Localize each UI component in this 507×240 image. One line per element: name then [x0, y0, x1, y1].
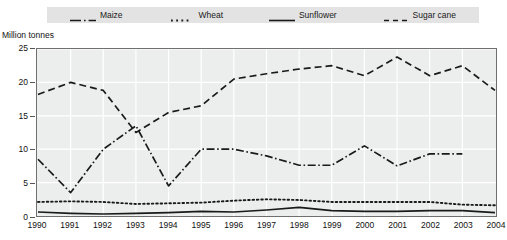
x-axis-tick-label: 1998 — [290, 220, 309, 230]
page-bottom-margin — [0, 232, 507, 240]
legend-item-sugar-cane[interactable]: Sugar cane — [383, 11, 456, 20]
y-axis-tick — [30, 183, 35, 184]
x-axis-tick-label: 2000 — [355, 220, 374, 230]
y-axis-tick-label: 20 — [19, 77, 28, 87]
chart-page: Maize Wheat Sunflower Sugar cane Million… — [0, 0, 507, 240]
chart-canvas — [37, 49, 496, 216]
line-dashdot-icon — [70, 11, 96, 20]
y-axis-unit-caption: Million tonnes — [2, 30, 54, 40]
x-axis-tick-label: 1996 — [224, 220, 243, 230]
line-solid-icon — [269, 11, 295, 20]
legend-item-sunflower[interactable]: Sunflower — [269, 11, 337, 20]
chart-legend: Maize Wheat Sunflower Sugar cane — [47, 7, 479, 23]
legend-item-maize[interactable]: Maize — [70, 11, 123, 20]
legend-label-wheat: Wheat — [198, 11, 223, 20]
x-axis-tick-label: 1994 — [159, 220, 178, 230]
legend-label-sugar-cane: Sugar cane — [413, 11, 456, 20]
x-axis-tick-label: 2004 — [487, 220, 506, 230]
y-axis-labels: 0510152025 — [0, 44, 34, 214]
x-axis-tick-label: 1993 — [126, 220, 145, 230]
plot-area — [36, 48, 497, 217]
legend-label-sunflower: Sunflower — [299, 11, 337, 20]
line-dashed-icon — [383, 11, 409, 20]
x-axis-tick-label: 2001 — [388, 220, 407, 230]
legend-label-maize: Maize — [100, 11, 123, 20]
y-axis-tick-label: 15 — [19, 111, 28, 121]
x-axis-tick-label: 1991 — [60, 220, 79, 230]
x-axis-tick-label: 1997 — [257, 220, 276, 230]
y-axis-tick — [30, 82, 35, 83]
y-axis-tick-label: 25 — [19, 43, 28, 53]
line-dotted-icon — [168, 11, 194, 20]
legend-item-wheat[interactable]: Wheat — [168, 11, 223, 20]
x-axis-tick-label: 2003 — [454, 220, 473, 230]
y-axis-tick — [30, 149, 35, 150]
y-axis-tick — [30, 116, 35, 117]
x-axis-tick-label: 1999 — [323, 220, 342, 230]
y-axis-tick-label: 10 — [19, 144, 28, 154]
y-axis-tick — [30, 217, 35, 218]
y-axis-tick-label: 5 — [23, 178, 28, 188]
x-axis-tick-label: 1995 — [191, 220, 210, 230]
x-axis-tick-label: 2002 — [421, 220, 440, 230]
y-axis-tick — [30, 48, 35, 49]
plot-wrapper: 0510152025 19901991199219931994199519961… — [0, 44, 507, 222]
x-axis-tick-label: 1992 — [93, 220, 112, 230]
x-axis-tick-label: 1990 — [28, 220, 47, 230]
